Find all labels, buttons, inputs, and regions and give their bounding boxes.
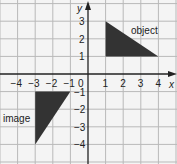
y-axis-label: y (76, 3, 83, 14)
x-axis-label: x (168, 79, 175, 90)
x-tick-label: 4 (155, 78, 161, 89)
y-tick-label: 3 (79, 16, 85, 27)
y-tick-label: −2 (74, 104, 86, 115)
x-tick-label: 2 (120, 78, 126, 89)
y-tick-label: −4 (74, 139, 86, 150)
y-tick-label: −1 (74, 87, 86, 98)
x-tick-label: 1 (103, 78, 109, 89)
y-tick-label: −3 (74, 122, 86, 133)
image-label: image (3, 113, 31, 124)
y-axis-arrow-icon (85, 1, 91, 10)
y-tick-label: 1 (79, 51, 85, 62)
x-tick-label: 3 (138, 78, 144, 89)
x-tick-label: −2 (46, 78, 58, 89)
y-tick-label: 2 (79, 34, 85, 45)
x-tick-label: −4 (11, 78, 23, 89)
object-label: object (131, 25, 158, 36)
y-axis (85, 1, 91, 164)
coordinate-grid-diagram: −4−3−2−101234 321−1−2−3−4 x y object ima… (0, 0, 177, 164)
x-tick-label: −3 (28, 78, 40, 89)
x-tick-labels: −4−3−2−101234 (11, 78, 162, 89)
